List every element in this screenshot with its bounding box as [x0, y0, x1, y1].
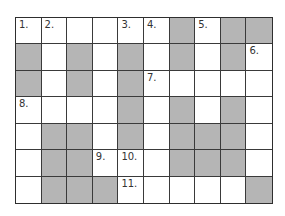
blocked-cell — [93, 177, 119, 203]
blocked-cell — [170, 44, 196, 70]
blocked-cell — [195, 150, 221, 176]
clue-number: 10. — [121, 152, 137, 162]
answer-cell[interactable] — [42, 71, 68, 97]
answer-cell[interactable] — [144, 150, 170, 176]
blocked-cell — [118, 124, 144, 150]
clue-number: 6. — [249, 46, 259, 56]
answer-cell[interactable] — [42, 97, 68, 123]
blocked-cell — [42, 124, 68, 150]
clue-number: 7. — [147, 73, 157, 83]
clue-number: 5. — [198, 20, 208, 30]
answer-cell[interactable]: 4. — [144, 18, 170, 44]
answer-cell[interactable]: 7. — [144, 71, 170, 97]
answer-cell[interactable]: 6. — [246, 44, 272, 70]
clue-number: 11. — [121, 179, 137, 189]
answer-cell[interactable] — [16, 124, 42, 150]
answer-cell[interactable] — [170, 71, 196, 97]
blocked-cell — [195, 124, 221, 150]
clue-number: 2. — [45, 20, 55, 30]
answer-cell[interactable] — [16, 150, 42, 176]
blocked-cell — [67, 44, 93, 70]
answer-cell[interactable]: 2. — [42, 18, 68, 44]
answer-cell[interactable] — [195, 177, 221, 203]
answer-cell[interactable] — [93, 124, 119, 150]
clue-number: 8. — [19, 99, 29, 109]
answer-cell[interactable] — [67, 97, 93, 123]
blocked-cell — [118, 44, 144, 70]
blocked-cell — [42, 150, 68, 176]
answer-cell[interactable] — [144, 177, 170, 203]
blocked-cell — [42, 177, 68, 203]
blocked-cell — [16, 44, 42, 70]
answer-cell[interactable] — [93, 97, 119, 123]
blocked-cell — [67, 71, 93, 97]
answer-cell[interactable] — [67, 18, 93, 44]
answer-cell[interactable] — [42, 44, 68, 70]
answer-cell[interactable] — [246, 97, 272, 123]
answer-cell[interactable] — [93, 71, 119, 97]
blocked-cell — [170, 124, 196, 150]
answer-cell[interactable]: 9. — [93, 150, 119, 176]
answer-cell[interactable] — [144, 44, 170, 70]
blocked-cell — [170, 97, 196, 123]
answer-cell[interactable] — [195, 71, 221, 97]
blocked-cell — [221, 150, 247, 176]
answer-cell[interactable] — [93, 44, 119, 70]
answer-cell[interactable]: 3. — [118, 18, 144, 44]
answer-cell[interactable] — [144, 97, 170, 123]
answer-cell[interactable]: 10. — [118, 150, 144, 176]
blocked-cell — [67, 124, 93, 150]
blocked-cell — [221, 44, 247, 70]
answer-cell[interactable] — [170, 177, 196, 203]
answer-cell[interactable] — [246, 71, 272, 97]
blocked-cell — [67, 177, 93, 203]
blocked-cell — [170, 150, 196, 176]
blocked-cell — [170, 18, 196, 44]
answer-cell[interactable]: 5. — [195, 18, 221, 44]
crossword-grid: 1.2.3.4.5.6.7.8.9.10.11. — [15, 17, 273, 204]
blocked-cell — [221, 18, 247, 44]
blocked-cell — [221, 124, 247, 150]
answer-cell[interactable] — [221, 177, 247, 203]
answer-cell[interactable] — [221, 71, 247, 97]
blocked-cell — [221, 97, 247, 123]
clue-number: 1. — [19, 20, 29, 30]
clue-number: 3. — [121, 20, 131, 30]
blocked-cell — [118, 97, 144, 123]
blocked-cell — [118, 71, 144, 97]
clue-number: 4. — [147, 20, 157, 30]
answer-cell[interactable]: 11. — [118, 177, 144, 203]
blocked-cell — [246, 177, 272, 203]
answer-cell[interactable] — [246, 124, 272, 150]
answer-cell[interactable] — [93, 18, 119, 44]
answer-cell[interactable]: 8. — [16, 97, 42, 123]
answer-cell[interactable] — [16, 177, 42, 203]
blocked-cell — [67, 150, 93, 176]
blocked-cell — [246, 18, 272, 44]
answer-cell[interactable] — [246, 150, 272, 176]
answer-cell[interactable] — [195, 44, 221, 70]
answer-cell[interactable]: 1. — [16, 18, 42, 44]
blocked-cell — [16, 71, 42, 97]
answer-cell[interactable] — [195, 97, 221, 123]
clue-number: 9. — [96, 152, 106, 162]
answer-cell[interactable] — [144, 124, 170, 150]
